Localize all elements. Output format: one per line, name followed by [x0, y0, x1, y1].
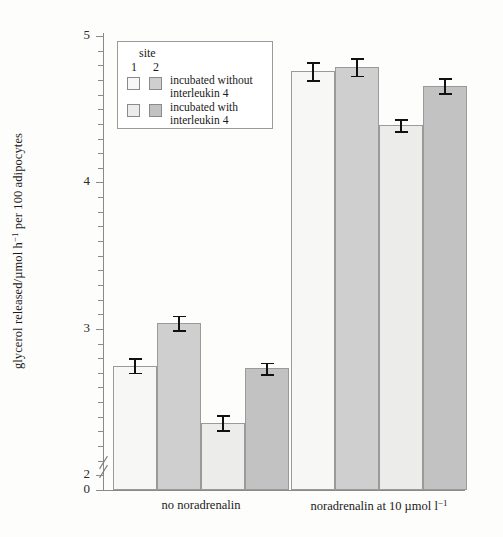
y-axis-title-post: per 100 adipocytes: [11, 133, 25, 232]
x-category-label-text: noradrenalin at 10 µmol l: [311, 499, 438, 513]
error-bar-stem: [444, 78, 446, 93]
y-minor-tick: [98, 300, 103, 301]
x-category-label-sup: −1: [438, 498, 448, 508]
y-minor-tick: [98, 417, 103, 418]
chart-legend: site 1 2 incubated without interleukin 4…: [117, 41, 273, 129]
error-bar-cap-lower: [395, 131, 408, 133]
y-minor-tick: [98, 153, 103, 154]
y-minor-tick: [98, 461, 103, 462]
y-minor-tick: [98, 314, 103, 315]
bar-group2-series1: [291, 71, 335, 490]
y-tick-label-5: 5: [66, 28, 90, 41]
y-minor-tick: [98, 124, 103, 125]
y-tick-label-0: 0: [66, 482, 90, 495]
y-minor-tick: [98, 270, 103, 271]
y-minor-tick: [98, 256, 103, 257]
y-minor-tick: [98, 344, 103, 345]
y-minor-tick: [98, 226, 103, 227]
legend-swatch-site1-without: [127, 77, 140, 90]
legend-label-with-line1: incubated with: [170, 101, 238, 113]
y-minor-tick: [98, 197, 103, 198]
y-tick-2: [96, 475, 103, 476]
legend-label-without-line2: interleukin 4: [170, 87, 228, 99]
error-bar-stem: [134, 358, 136, 373]
y-tick-0: [96, 490, 103, 491]
legend-title: site: [139, 46, 156, 61]
error-bar-stem: [266, 363, 268, 375]
y-tick-label-4: 4: [66, 174, 90, 187]
y-minor-tick: [98, 373, 103, 374]
y-tick-3: [96, 329, 103, 330]
x-category-label-1: no noradrenalin: [113, 498, 289, 513]
error-bar-cap-upper: [173, 316, 186, 318]
y-tick-4: [96, 182, 103, 183]
y-axis-title: glycerol released/µmol h−1 per 100 adipo…: [10, 101, 26, 401]
error-bar-cap-upper: [261, 363, 274, 365]
error-bar-cap-upper: [217, 415, 230, 417]
y-minor-tick: [98, 51, 103, 52]
error-bar-cap-lower: [351, 76, 364, 78]
error-bar-cap-upper: [129, 358, 142, 360]
legend-site-number-1: 1: [127, 60, 141, 75]
y-tick-5: [96, 36, 103, 37]
y-minor-tick: [98, 80, 103, 81]
legend-label-with-interleukin: incubated with interleukin 4: [170, 101, 275, 127]
x-axis-line: [103, 490, 465, 491]
y-axis-title-sup: −1: [10, 232, 20, 242]
error-bar-stem: [178, 316, 180, 331]
error-bar-cap-lower: [173, 330, 186, 332]
legend-swatch-site2-with: [149, 104, 162, 117]
bar-group1-series1: [113, 366, 157, 490]
y-minor-tick: [98, 431, 103, 432]
error-bar-cap-upper: [395, 119, 408, 121]
chart-figure: glycerol released/µmol h−1 per 100 adipo…: [0, 0, 503, 537]
error-bar-cap-lower: [129, 373, 142, 375]
bar-group1-series2: [157, 323, 201, 490]
error-bar-stem: [400, 119, 402, 131]
y-minor-tick: [98, 285, 103, 286]
error-bar-stem: [222, 415, 224, 430]
y-axis-title-pre: glycerol released/µmol h: [11, 242, 25, 369]
y-axis-break-icon: [95, 452, 111, 482]
error-bar-cap-lower: [261, 374, 274, 376]
y-minor-tick: [98, 109, 103, 110]
y-minor-tick: [98, 139, 103, 140]
y-minor-tick: [98, 241, 103, 242]
y-minor-tick: [98, 212, 103, 213]
x-category-label-2: noradrenalin at 10 µmol l−1: [291, 498, 467, 514]
legend-label-without-interleukin: incubated without interleukin 4: [170, 74, 275, 100]
error-bar-stem: [356, 58, 358, 76]
y-minor-tick: [98, 402, 103, 403]
error-bar-cap-upper: [307, 62, 320, 64]
y-axis-line: [103, 33, 104, 491]
error-bar-cap-upper: [439, 78, 452, 80]
bar-group2-series3: [379, 125, 423, 490]
error-bar-cap-lower: [307, 80, 320, 82]
bar-group1-series4: [245, 368, 289, 490]
y-minor-tick: [98, 446, 103, 447]
bar-group1-series3: [201, 423, 245, 490]
y-minor-tick: [98, 358, 103, 359]
error-bar-cap-upper: [351, 58, 364, 60]
y-minor-tick: [98, 65, 103, 66]
legend-swatch-site1-with: [127, 104, 140, 117]
y-tick-label-2: 2: [66, 467, 90, 480]
y-minor-tick: [98, 387, 103, 388]
y-minor-tick: [98, 95, 103, 96]
bar-group2-series4: [423, 86, 467, 490]
legend-label-without-line1: incubated without: [170, 74, 253, 86]
legend-swatch-site2-without: [149, 77, 162, 90]
error-bar-cap-lower: [217, 430, 230, 432]
bar-group2-series2: [335, 67, 379, 490]
y-tick-label-3: 3: [66, 321, 90, 334]
y-minor-tick: [98, 168, 103, 169]
legend-site-number-2: 2: [149, 60, 163, 75]
error-bar-stem: [312, 62, 314, 80]
legend-label-with-line2: interleukin 4: [170, 114, 228, 126]
error-bar-cap-lower: [439, 93, 452, 95]
